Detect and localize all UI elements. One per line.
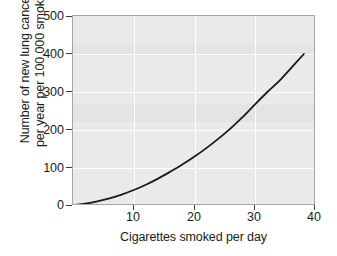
- data-series-curve: [73, 16, 315, 205]
- x-tick-label-10: 10: [113, 211, 153, 223]
- y-tick-mark-0: [66, 205, 72, 206]
- x-tick-label-20: 20: [174, 211, 214, 223]
- y-tick-label-400: 400: [24, 48, 64, 60]
- y-tick-label-0: 0: [24, 199, 64, 211]
- x-axis-title: Cigarettes smoked per day: [72, 230, 315, 244]
- y-tick-label-300: 300: [24, 86, 64, 98]
- x-tick-label-40: 40: [294, 211, 334, 223]
- chart-figure: Number of new lung cancers per year per …: [0, 0, 337, 256]
- curve-path: [73, 54, 304, 205]
- plot-inner: [73, 16, 314, 204]
- y-tick-label-100: 100: [24, 162, 64, 174]
- y-tick-label-200: 200: [24, 124, 64, 136]
- x-tick-label-30: 30: [234, 211, 274, 223]
- plot-area: [72, 15, 315, 205]
- y-tick-label-500: 500: [24, 10, 64, 22]
